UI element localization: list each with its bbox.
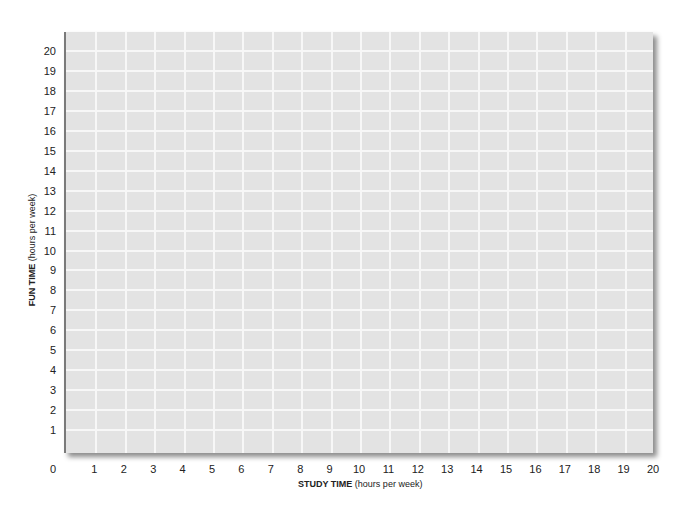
- grid-line-horizontal: [66, 190, 653, 192]
- y-axis-label-units: (hours per week): [27, 194, 37, 262]
- grid-line-horizontal: [66, 389, 653, 391]
- grid-line-horizontal: [66, 230, 653, 232]
- grid-line-horizontal: [66, 90, 653, 92]
- y-tick-label: 15: [26, 145, 56, 157]
- grid-line-horizontal: [66, 170, 653, 172]
- y-axis-label-bold: FUN TIME: [27, 264, 37, 307]
- grid-line-horizontal: [66, 150, 653, 152]
- grid-line-horizontal: [66, 50, 653, 52]
- y-tick-label: 5: [26, 344, 56, 356]
- x-tick-label: 4: [171, 463, 195, 475]
- plot-area: [64, 32, 653, 453]
- x-axis-label-units: (hours per week): [355, 479, 423, 489]
- y-tick-label: 18: [26, 85, 56, 97]
- x-tick-label: 10: [347, 463, 371, 475]
- y-tick-label: 2: [26, 404, 56, 416]
- grid-line-horizontal: [66, 110, 653, 112]
- x-tick-label: 9: [318, 463, 342, 475]
- y-tick-label: 6: [26, 324, 56, 336]
- x-axis-label: STUDY TIME (hours per week): [298, 479, 422, 489]
- x-tick-label: 20: [641, 463, 665, 475]
- x-tick-label: 8: [288, 463, 312, 475]
- y-axis-label: FUN TIME (hours per week): [27, 194, 37, 307]
- x-tick-label: 15: [494, 463, 518, 475]
- x-tick-label: 14: [465, 463, 489, 475]
- x-tick-label: 12: [406, 463, 430, 475]
- x-tick-label: 6: [229, 463, 253, 475]
- grid-line-horizontal: [66, 130, 653, 132]
- x-tick-label: 17: [553, 463, 577, 475]
- x-tick-label: 13: [435, 463, 459, 475]
- x-tick-label: 0: [41, 463, 65, 475]
- grid-line-horizontal: [66, 369, 653, 371]
- x-tick-label: 16: [523, 463, 547, 475]
- x-tick-label: 2: [112, 463, 136, 475]
- grid-line-horizontal: [66, 329, 653, 331]
- x-tick-label: 1: [82, 463, 106, 475]
- y-tick-label: 1: [26, 424, 56, 436]
- grid-line-horizontal: [66, 269, 653, 271]
- x-tick-label: 11: [376, 463, 400, 475]
- y-tick-label: 4: [26, 364, 56, 376]
- x-tick-label: 7: [259, 463, 283, 475]
- y-tick-label: 14: [26, 165, 56, 177]
- grid-line-horizontal: [66, 429, 653, 431]
- x-tick-label: 3: [141, 463, 165, 475]
- grid-line-horizontal: [66, 349, 653, 351]
- y-tick-label: 17: [26, 105, 56, 117]
- grid-line-horizontal: [66, 250, 653, 252]
- x-tick-label: 18: [582, 463, 606, 475]
- y-tick-label: 19: [26, 65, 56, 77]
- grid-line-horizontal: [66, 70, 653, 72]
- x-tick-label: 5: [200, 463, 224, 475]
- x-axis-label-bold: STUDY TIME: [298, 479, 352, 489]
- grid-line-horizontal: [66, 289, 653, 291]
- grid-line-horizontal: [66, 309, 653, 311]
- grid-line-horizontal: [66, 409, 653, 411]
- x-tick-label: 19: [612, 463, 636, 475]
- y-tick-label: 20: [26, 45, 56, 57]
- y-tick-label: 16: [26, 125, 56, 137]
- grid-line-horizontal: [66, 210, 653, 212]
- y-tick-label: 3: [26, 384, 56, 396]
